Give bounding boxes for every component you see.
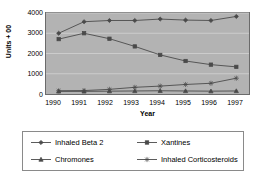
legend-item-chromones[interactable]: Chromones	[27, 155, 133, 164]
y-axis: 4000 3000 2000 1000 0 Units + 00	[0, 0, 43, 104]
legend-label: Inhaled Beta 2	[55, 139, 103, 147]
series-canvas	[46, 13, 249, 94]
x-tick-1991: 1991	[66, 99, 92, 106]
x-tick-1992: 1992	[92, 99, 118, 106]
chart-root: 4000 3000 2000 1000 0 Units + 00 1990 19…	[0, 0, 266, 178]
x-tick-1996: 1996	[196, 99, 222, 106]
legend-marker-triangle-icon	[31, 155, 51, 164]
y-tick-1000: 1000	[1, 70, 43, 77]
legend-item-xantines[interactable]: Xantines	[133, 138, 239, 147]
x-axis-label: Year	[45, 110, 250, 117]
legend-label: Inhaled Corticosteroids	[161, 156, 238, 164]
plot-area	[45, 12, 250, 95]
line-chart: 4000 3000 2000 1000 0 Units + 00 1990 19…	[0, 0, 266, 104]
x-tick-1993: 1993	[118, 99, 144, 106]
x-tick-1990: 1990	[40, 99, 66, 106]
y-axis-label: Units + 00	[5, 16, 12, 68]
legend-item-inhaled-beta-2[interactable]: Inhaled Beta 2	[27, 138, 133, 147]
chart-legend: Inhaled Beta 2 Xantines Chromones Inhale…	[22, 131, 244, 171]
legend-item-inhaled-corticosteroids[interactable]: Inhaled Corticosteroids	[133, 155, 239, 164]
x-tick-1994: 1994	[144, 99, 170, 106]
legend-label: Xantines	[161, 139, 190, 147]
legend-marker-diamond-icon	[31, 138, 51, 147]
legend-label: Chromones	[55, 156, 94, 164]
legend-marker-star-icon	[137, 155, 157, 164]
y-tick-0: 0	[1, 91, 43, 98]
legend-marker-square-icon	[137, 138, 157, 147]
x-tick-1995: 1995	[170, 99, 196, 106]
x-tick-1997: 1997	[222, 99, 248, 106]
